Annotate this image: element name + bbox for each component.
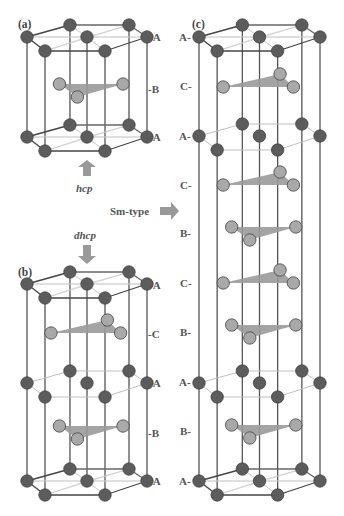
layer-label-c-10: A- (179, 476, 191, 487)
atom-C (101, 314, 113, 326)
layer-label-c-8: A- (179, 377, 191, 388)
hex-edge (199, 469, 242, 481)
layer-label-c-9: B- (180, 426, 191, 437)
hex-edge (105, 137, 147, 151)
atom-A (99, 45, 111, 57)
b-layer-triangle (232, 325, 296, 338)
layer-label-c-2: C- (180, 81, 192, 92)
hcp-caption: hcp (76, 183, 93, 194)
atom-A (64, 19, 76, 31)
layer-label-a-top: -A (149, 32, 161, 43)
atom-A (81, 377, 93, 389)
panel-b-label: (b) (18, 267, 32, 279)
atom-A (39, 391, 51, 403)
atom-A (81, 131, 93, 143)
atom-B (244, 234, 256, 246)
atom-A (21, 475, 33, 487)
hex-edge (278, 37, 320, 51)
atom-A (99, 489, 111, 501)
hex-edge (27, 469, 70, 481)
atom-A (21, 377, 33, 389)
atom-A (64, 365, 76, 377)
layer-label-b-4: -B (148, 428, 159, 439)
atom-A (193, 475, 205, 487)
atom-A (271, 144, 283, 156)
atom-A (39, 45, 51, 57)
layer-label-c-4: C- (180, 180, 192, 191)
layer-label-b-5: -A (149, 476, 161, 487)
hex-edge (27, 25, 70, 37)
atom-C (287, 81, 299, 93)
hex-edge (278, 136, 320, 150)
atom-B (290, 419, 302, 431)
atom-C (274, 68, 286, 80)
b-layer-triangle (59, 84, 123, 97)
atom-A (21, 278, 33, 290)
atom-A (253, 377, 265, 389)
atom-A (81, 278, 93, 290)
atom-A (64, 463, 76, 475)
atom-C (217, 179, 229, 191)
atom-C (287, 179, 299, 191)
atom-A (123, 365, 135, 377)
atom-C (274, 264, 286, 276)
atom-A (271, 45, 283, 57)
hex-edge (105, 481, 147, 495)
atom-A (21, 131, 33, 143)
atom-B (71, 433, 83, 445)
atom-A (314, 130, 326, 142)
hex-edge (27, 125, 70, 137)
atom-A (211, 144, 223, 156)
atom-A (271, 391, 283, 403)
atom-C (274, 166, 286, 178)
atom-B (117, 420, 129, 432)
atom-A (99, 292, 111, 304)
atom-C (287, 277, 299, 289)
atom-C (217, 81, 229, 93)
atom-B (290, 319, 302, 331)
layer-label-b-1: -A (149, 280, 161, 291)
b-layer-triangle (232, 425, 296, 438)
atom-A (123, 463, 135, 475)
atom-A (123, 119, 135, 131)
atom-A (39, 292, 51, 304)
atom-A (253, 130, 265, 142)
atom-A (314, 475, 326, 487)
atom-B (117, 78, 129, 90)
atom-A (296, 118, 308, 130)
down-arrow-icon (78, 245, 96, 264)
atom-C (217, 277, 229, 289)
atom-A (99, 145, 111, 157)
hex-edge (105, 37, 147, 51)
right-arrow-icon (160, 202, 179, 220)
atom-A (236, 365, 248, 377)
layer-label-a-mid: -B (148, 84, 159, 95)
atom-B (225, 419, 237, 431)
atom-A (211, 489, 223, 501)
atom-B (225, 221, 237, 233)
hex-edge (278, 383, 320, 397)
atom-A (193, 130, 205, 142)
atom-A (253, 475, 265, 487)
layer-label-a-bot: -A (149, 132, 161, 143)
atom-B (53, 78, 65, 90)
layer-label-c-5: B- (180, 228, 191, 239)
atom-A (81, 31, 93, 43)
atom-A (314, 377, 326, 389)
atom-A (236, 118, 248, 130)
atom-A (211, 45, 223, 57)
atom-A (236, 463, 248, 475)
atom-A (64, 266, 76, 278)
hex-edge (105, 284, 147, 298)
up-arrow-icon (78, 160, 96, 176)
atom-A (253, 31, 265, 43)
atom-A (211, 391, 223, 403)
atom-B (53, 420, 65, 432)
layer-label-c-6: C- (180, 278, 192, 289)
atom-A (296, 463, 308, 475)
layer-label-c-7: B- (180, 327, 191, 338)
hex-edge (27, 371, 70, 383)
atom-A (236, 19, 248, 31)
atom-A (271, 489, 283, 501)
hex-edge (105, 383, 147, 397)
